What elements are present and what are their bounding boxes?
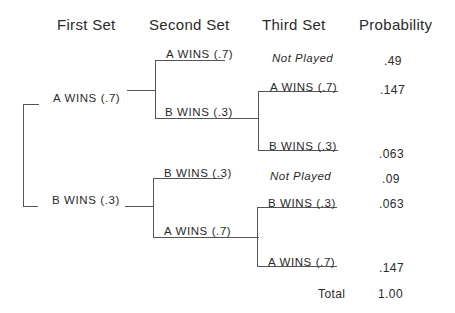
- underline-aa: [155, 60, 225, 61]
- header-probability: Probability: [359, 16, 432, 33]
- third-set-not-played-bb: Not Played: [270, 170, 331, 182]
- third-set-a-wins-ba: A WINS (.7): [268, 256, 335, 268]
- second-set-a-wins-after-b: A WINS (.7): [164, 225, 231, 237]
- connector-b-to-second: [125, 206, 154, 207]
- first-set-a-wins: A WINS (.7): [53, 92, 120, 104]
- second-bracket-lower: [153, 178, 154, 237]
- total-label: Total: [318, 287, 345, 301]
- root-branch-a: [23, 104, 39, 105]
- third-set-b-wins-ab: B WINS (.3): [269, 140, 337, 152]
- connector-a-to-second: [127, 90, 156, 91]
- first-set-b-wins: B WINS (.3): [52, 194, 120, 206]
- header-first-set: First Set: [57, 16, 116, 33]
- probability-abb: .063: [379, 147, 404, 161]
- probability-baa: .147: [379, 261, 404, 275]
- third-set-b-wins-ba: B WINS (.3): [268, 197, 336, 209]
- underline-ab: [155, 118, 259, 119]
- second-set-b-wins-after-b: B WINS (.3): [164, 167, 232, 179]
- second-set-a-wins-after-a: A WINS (.7): [166, 48, 233, 60]
- header-second-set: Second Set: [149, 16, 230, 33]
- probability-bab: .063: [379, 197, 404, 211]
- underline-ba: [153, 237, 259, 238]
- second-set-b-wins-after-a: B WINS (.3): [165, 106, 233, 118]
- probability-bb: .09: [382, 172, 400, 186]
- probability-aba: .147: [380, 83, 405, 97]
- total-value: 1.00: [378, 287, 403, 301]
- third-bracket-upper: [258, 91, 259, 151]
- third-bracket-lower: [257, 207, 258, 267]
- header-third-set: Third Set: [262, 16, 326, 33]
- probability-aa: .49: [384, 54, 402, 68]
- second-bracket-upper: [155, 60, 156, 119]
- third-set-not-played-aa: Not Played: [272, 52, 333, 64]
- third-set-a-wins-ab: A WINS (.7): [270, 81, 337, 93]
- root-bracket-vertical: [23, 104, 24, 207]
- root-branch-b: [23, 206, 38, 207]
